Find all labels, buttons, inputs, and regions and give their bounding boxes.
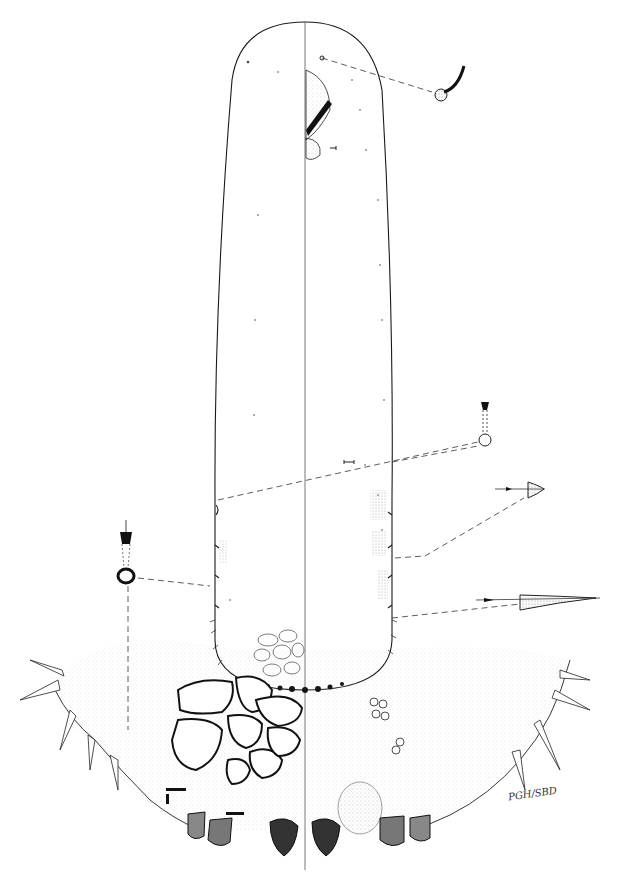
inset-spine-short (395, 482, 545, 558)
body-outline (215, 22, 392, 690)
inset-spine-long (392, 595, 600, 618)
pore-clusters (218, 490, 388, 600)
inset-tubular-duct-right (218, 402, 491, 500)
posterior-region (20, 640, 590, 856)
mouthparts (306, 56, 336, 159)
inset-curved-seta (322, 58, 464, 101)
insect-illustration (0, 0, 623, 873)
